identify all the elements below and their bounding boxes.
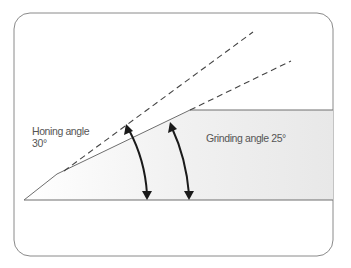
grinding-angle-label: Grinding angle 25° [206,132,286,144]
honing-angle-label: Honing angle 30° [32,125,89,149]
honing-angle-label-line1: Honing angle [32,125,89,137]
honing-angle-label-line2: 30° [32,137,89,149]
